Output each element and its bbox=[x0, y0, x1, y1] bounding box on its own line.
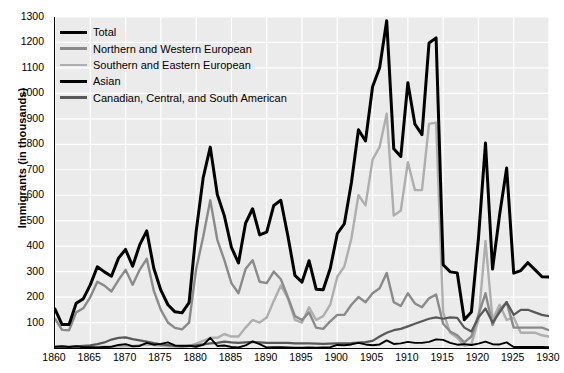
x-tick-1905: 1905 bbox=[352, 352, 392, 363]
x-tick-1920: 1920 bbox=[457, 352, 497, 363]
legend-item-0: Total bbox=[60, 24, 287, 40]
x-tick-1885: 1885 bbox=[210, 352, 250, 363]
x-tick-1895: 1895 bbox=[281, 352, 321, 363]
x-tick-1910: 1910 bbox=[387, 352, 427, 363]
x-tick-1875: 1875 bbox=[140, 352, 180, 363]
y-tick-800: 800 bbox=[0, 138, 44, 149]
legend-label: Southern and Eastern European bbox=[93, 59, 251, 71]
legend-swatch-icon bbox=[60, 64, 87, 67]
legend-swatch-icon bbox=[60, 96, 87, 99]
legend-item-2: Southern and Eastern European bbox=[60, 57, 287, 73]
y-tick-500: 500 bbox=[0, 215, 44, 226]
legend-swatch-icon bbox=[60, 80, 87, 83]
x-tick-1880: 1880 bbox=[175, 352, 215, 363]
legend-swatch-icon bbox=[60, 47, 87, 50]
legend-item-4: Canadian, Central, and South American bbox=[60, 90, 287, 106]
legend-item-3: Asian bbox=[60, 73, 287, 89]
legend-label: Asian bbox=[93, 75, 121, 87]
y-tick-100: 100 bbox=[0, 317, 44, 328]
legend: TotalNorthern and Western EuropeanSouthe… bbox=[60, 24, 287, 106]
legend-item-1: Northern and Western European bbox=[60, 40, 287, 56]
y-tick-400: 400 bbox=[0, 240, 44, 251]
x-tick-1870: 1870 bbox=[105, 352, 145, 363]
x-tick-1930: 1930 bbox=[528, 352, 564, 363]
y-tick-1300: 1300 bbox=[0, 11, 44, 22]
x-tick-1890: 1890 bbox=[246, 352, 286, 363]
legend-label: Canadian, Central, and South American bbox=[93, 92, 287, 104]
x-tick-1900: 1900 bbox=[316, 352, 356, 363]
y-tick-900: 900 bbox=[0, 113, 44, 124]
x-tick-1865: 1865 bbox=[69, 352, 109, 363]
y-tick-1100: 1100 bbox=[0, 62, 44, 73]
legend-label: Total bbox=[93, 26, 116, 38]
series-line bbox=[55, 302, 549, 347]
y-tick-600: 600 bbox=[0, 189, 44, 200]
y-tick-1200: 1200 bbox=[0, 36, 44, 47]
legend-label: Northern and Western European bbox=[93, 43, 252, 55]
y-axis-tick-labels: 1300120011001000900800700600500400300200… bbox=[0, 0, 50, 373]
y-tick-700: 700 bbox=[0, 164, 44, 175]
legend-swatch-icon bbox=[60, 31, 87, 34]
series-line bbox=[55, 114, 549, 348]
y-tick-1000: 1000 bbox=[0, 87, 44, 98]
y-tick-200: 200 bbox=[0, 291, 44, 302]
x-tick-1915: 1915 bbox=[422, 352, 462, 363]
x-tick-1925: 1925 bbox=[493, 352, 533, 363]
x-tick-1860: 1860 bbox=[34, 352, 74, 363]
y-tick-300: 300 bbox=[0, 266, 44, 277]
